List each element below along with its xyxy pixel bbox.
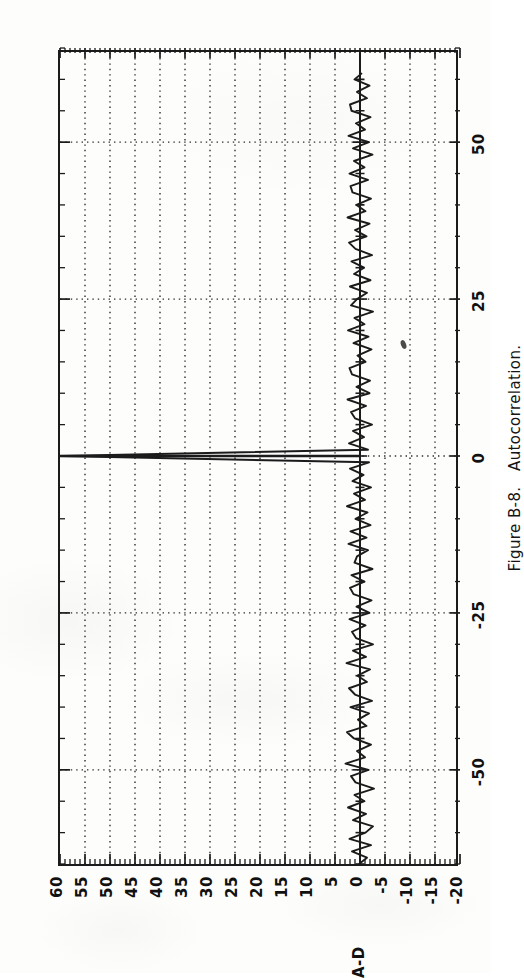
value-axis-tick-label: 35 xyxy=(175,876,190,928)
lag-axis-tick-label: 50 xyxy=(472,114,487,174)
lag-axis-tick-label: 25 xyxy=(472,271,487,331)
lag-axis-tick-label: -50 xyxy=(472,742,487,802)
value-axis-tick-label: 5 xyxy=(325,876,340,928)
value-axis-tick-label: -20 xyxy=(450,876,465,928)
value-axis-tick-label: 15 xyxy=(275,876,290,928)
value-axis-tick-label: 50 xyxy=(100,876,115,928)
lag-axis-tick-label: -25 xyxy=(472,585,487,645)
figure-caption: Figure B-8. Autocorrelation. xyxy=(506,308,524,608)
value-axis-tick-label: 0 xyxy=(350,876,365,928)
value-axis-tick-label: 25 xyxy=(225,876,240,928)
value-axis-tick-label: 55 xyxy=(75,876,90,928)
value-axis-tick-label: 45 xyxy=(125,876,140,928)
value-axis-label: A-D xyxy=(350,946,368,978)
value-axis-tick-label: 20 xyxy=(250,876,265,928)
lag-axis-tick-label: 0 xyxy=(472,428,487,488)
plot-frame xyxy=(58,50,458,866)
value-axis-tick-label: -5 xyxy=(375,876,390,928)
value-axis-tick-label: 30 xyxy=(200,876,215,928)
plot-clip xyxy=(60,52,456,864)
value-axis-tick-label: -10 xyxy=(400,876,415,928)
value-axis-tick-label: -15 xyxy=(425,876,440,928)
autocorrelation-trace xyxy=(60,52,456,864)
value-axis-tick-label: 60 xyxy=(50,876,65,928)
value-axis-tick-label: 40 xyxy=(150,876,165,928)
value-axis-tick-label: 10 xyxy=(300,876,315,928)
